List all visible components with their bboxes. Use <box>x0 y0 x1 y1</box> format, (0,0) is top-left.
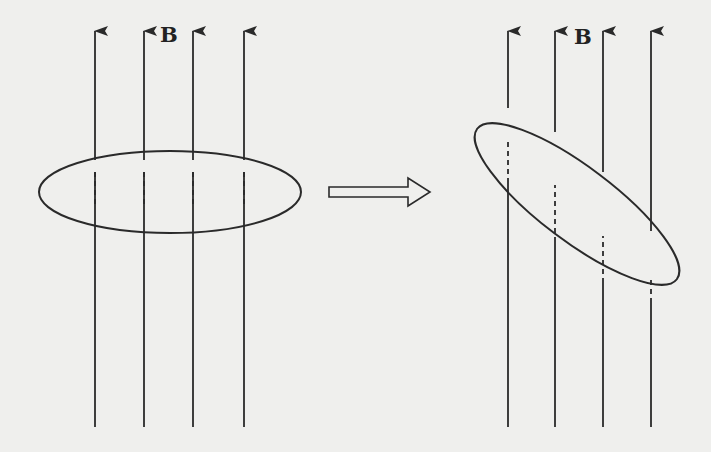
right-field-label: B <box>574 26 592 47</box>
transition-arrow <box>329 178 430 206</box>
left-panel <box>39 31 301 427</box>
right-field-lines <box>508 31 651 427</box>
diagram-svg <box>0 0 711 452</box>
left-loop <box>39 151 301 233</box>
right-panel <box>455 31 699 427</box>
left-line-gaps <box>92 160 247 172</box>
right-loop <box>455 99 699 309</box>
left-field-label: B <box>160 24 178 45</box>
flux-diagram: B B <box>0 0 711 452</box>
right-line-gaps <box>505 108 654 280</box>
